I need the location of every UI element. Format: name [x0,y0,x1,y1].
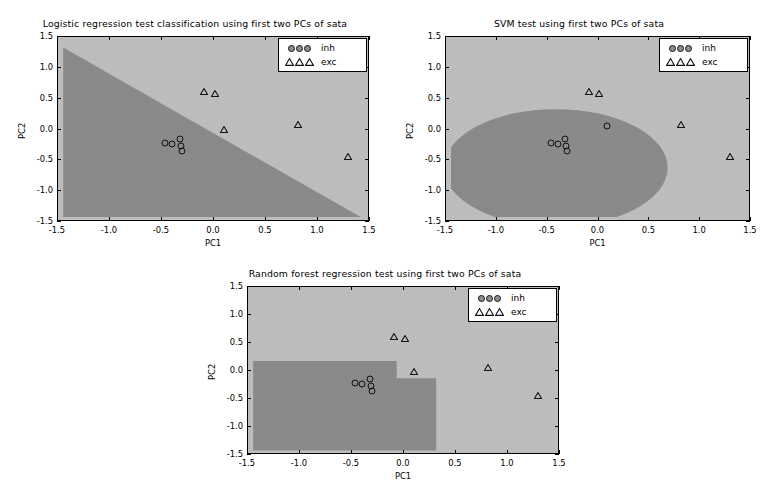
legend-svm[interactable]: inhexc [659,38,748,72]
y-tick [445,67,449,68]
x-tick-label: 0.5 [258,225,271,235]
x-tick-top [455,286,456,290]
legend-label: inh [697,43,716,53]
x-tick-label: -0.5 [538,225,554,235]
y-tick [445,36,449,37]
plot-panel-svm: SVM test using first two PCs of sata -1.… [398,18,760,253]
x-tick-top [496,36,497,40]
x-axis-label: PC1 [445,238,750,248]
x-tick [351,450,352,454]
x-tick [369,217,370,221]
data-point-inh [563,148,570,155]
y-tick-right [746,98,750,99]
x-tick-top [161,36,162,40]
x-tick-label: 0.5 [642,225,655,235]
x-tick-top [351,286,352,290]
legend-triangle-icon [295,58,304,66]
plot-title-logistic-regression: Logistic regression test classification … [10,18,380,30]
y-tick [57,159,61,160]
data-point-inh [554,140,561,147]
legend-random-forest[interactable]: inhexc [468,288,557,322]
data-point-inh [162,140,169,147]
x-tick-label: 1.0 [500,458,513,468]
legend-circle-icon [677,45,684,52]
legend-row: exc [282,55,362,69]
y-tick-right [746,159,750,160]
triangle-marker [663,58,697,66]
x-tick-top [299,286,300,290]
y-tick-label: 0.5 [25,93,53,103]
x-tick-top [559,286,560,290]
y-tick-right [555,370,559,371]
y-tick-label: -1.5 [413,216,441,226]
legend-triangle-icon [485,308,494,316]
x-tick [699,217,700,221]
y-tick-label: 0.0 [215,365,243,375]
x-tick-label: -0.5 [343,458,359,468]
legend-circle-icon [494,295,501,302]
y-tick [445,159,449,160]
y-tick-label: 0.0 [25,124,53,134]
x-tick [507,450,508,454]
y-tick-label: 0.0 [413,124,441,134]
x-tick [161,217,162,221]
y-tick-label: 1.0 [215,309,243,319]
y-tick-label: 1.5 [215,281,243,291]
x-tick-label: -1.0 [291,458,307,468]
triangle-marker [282,58,316,66]
y-tick-right [746,221,750,222]
plot-title-svm: SVM test using first two PCs of sata [398,18,760,30]
data-point-inh [547,140,554,147]
x-tick-label: 0.5 [448,458,461,468]
legend-circle-icon [296,45,303,52]
y-tick-label: 0.5 [413,93,441,103]
y-tick [445,190,449,191]
legend-circle-icon [685,45,692,52]
x-tick [455,450,456,454]
x-tick-label: -1.5 [239,458,255,468]
y-tick-right [555,454,559,455]
y-tick [247,454,251,455]
y-tick-label: -1.0 [25,185,53,195]
y-tick-label: 1.0 [25,62,53,72]
legend-label: exc [316,57,337,67]
x-tick [750,217,751,221]
x-tick-label: 1.5 [743,225,756,235]
x-tick [213,217,214,221]
legend-triangle-icon [666,58,675,66]
y-tick [57,129,61,130]
legend-row: exc [663,55,743,69]
legend-triangle-icon [475,308,484,316]
x-tick [109,217,110,221]
y-tick-right [365,221,369,222]
x-tick-label: -1.5 [49,225,65,235]
legend-circle-icon [486,295,493,302]
y-tick-right [365,159,369,160]
legend-circle-icon [288,45,295,52]
x-tick [403,450,404,454]
legend-label: exc [506,307,527,317]
legend-circle-icon [304,45,311,52]
y-tick-label: -0.5 [25,154,53,164]
x-tick-label: 0.0 [396,458,409,468]
y-tick-label: 1.5 [25,31,53,41]
legend-triangle-icon [495,308,504,316]
y-tick-label: 1.5 [413,31,441,41]
x-tick-top [109,36,110,40]
y-tick [57,190,61,191]
data-point-inh [169,140,176,147]
y-tick-right [365,190,369,191]
x-tick-top [265,36,266,40]
legend-logistic-regression[interactable]: inhexc [278,38,367,72]
x-tick-label: -1.5 [437,225,453,235]
x-axis-label: PC1 [57,238,369,248]
data-point-inh [603,122,610,129]
x-tick [547,217,548,221]
legend-triangle-icon [305,58,314,66]
data-point-inh [359,380,366,387]
y-tick-label: -0.5 [413,154,441,164]
circle-marker [663,45,697,52]
legend-row: inh [472,291,552,305]
x-tick-top [598,36,599,40]
y-tick [445,221,449,222]
